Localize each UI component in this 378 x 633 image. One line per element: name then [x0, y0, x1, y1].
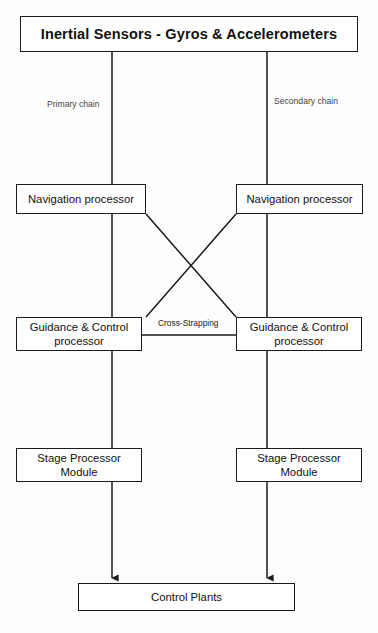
label-primary-chain: Primary chain	[47, 100, 100, 109]
node-stage-processor-module-left-text: Stage Processor Module	[37, 451, 121, 480]
node-inertial-sensors: Inertial Sensors - Gyros & Accelerometer…	[20, 16, 358, 52]
label-secondary-chain: Secondary chain	[274, 97, 338, 106]
node-navigation-processor-left: Navigation processor	[16, 184, 146, 214]
node-stage-processor-module-left-line2: Module	[37, 465, 121, 479]
node-stage-processor-module-left-line1: Stage Processor	[37, 451, 121, 465]
node-guidance-control-processor-right-line1: Guidance & Control	[250, 320, 349, 334]
diagram-canvas: Inertial Sensors - Gyros & Accelerometer…	[0, 0, 378, 633]
node-stage-processor-module-right-line2: Module	[257, 465, 341, 479]
node-guidance-control-processor-left: Guidance & Control processor	[16, 317, 142, 351]
node-inertial-sensors-label: Inertial Sensors - Gyros & Accelerometer…	[41, 26, 338, 43]
node-stage-processor-module-left: Stage Processor Module	[16, 448, 142, 482]
node-stage-processor-module-right-text: Stage Processor Module	[257, 451, 341, 480]
node-navigation-processor-left-label: Navigation processor	[28, 192, 134, 206]
node-guidance-control-processor-left-line1: Guidance & Control	[30, 320, 129, 334]
node-navigation-processor-right-label: Navigation processor	[246, 192, 352, 206]
node-guidance-control-processor-right: Guidance & Control processor	[236, 317, 362, 351]
node-guidance-control-processor-left-text: Guidance & Control processor	[30, 320, 129, 349]
node-control-plants: Control Plants	[78, 583, 295, 611]
node-guidance-control-processor-right-text: Guidance & Control processor	[250, 320, 349, 349]
node-guidance-control-processor-left-line2: processor	[30, 334, 129, 348]
node-stage-processor-module-right-line1: Stage Processor	[257, 451, 341, 465]
node-navigation-processor-right: Navigation processor	[236, 184, 363, 214]
label-cross-strapping-text: Cross-Strapping	[158, 318, 219, 328]
node-control-plants-label: Control Plants	[151, 591, 222, 603]
label-secondary-chain-text: Secondary chain	[274, 96, 338, 106]
label-primary-chain-text: Primary chain	[47, 99, 100, 109]
label-cross-strapping: Cross-Strapping	[156, 319, 221, 328]
node-stage-processor-module-right: Stage Processor Module	[236, 448, 362, 482]
node-guidance-control-processor-right-line2: processor	[250, 334, 349, 348]
